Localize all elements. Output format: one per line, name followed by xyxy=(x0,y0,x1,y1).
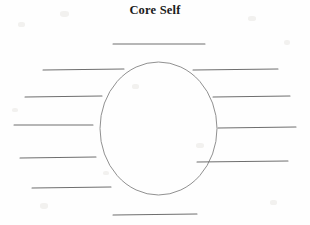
blank-right-4[interactable] xyxy=(197,161,288,162)
blank-right-3[interactable] xyxy=(218,127,296,128)
core-self-oval[interactable] xyxy=(100,62,217,195)
blank-left-2[interactable] xyxy=(25,96,102,97)
core-self-diagram xyxy=(0,0,310,225)
blank-right-1[interactable] xyxy=(193,69,278,70)
blank-right-2[interactable] xyxy=(213,96,290,97)
blank-lines-group xyxy=(14,44,296,215)
blank-left-1[interactable] xyxy=(43,69,124,70)
core-self-worksheet: Core Self xyxy=(0,0,310,225)
blank-left-4[interactable] xyxy=(20,157,96,158)
blank-bottom[interactable] xyxy=(113,214,197,215)
blank-left-5[interactable] xyxy=(32,187,111,188)
